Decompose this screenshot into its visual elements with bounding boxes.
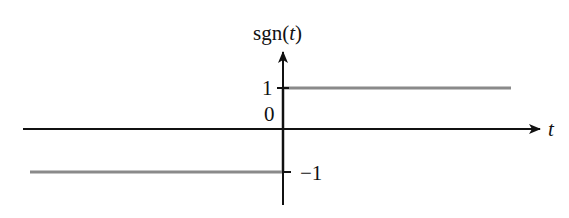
x-axis-label: t bbox=[548, 117, 555, 141]
tick-label-zero: 0 bbox=[264, 102, 275, 126]
tick-label-one: 1 bbox=[262, 76, 273, 100]
y-axis-label: sgn(t) bbox=[253, 21, 302, 45]
sgn-plot: sgn(t) 1 0 −1 t bbox=[0, 0, 569, 218]
tick-label-minus-one: −1 bbox=[300, 161, 322, 185]
